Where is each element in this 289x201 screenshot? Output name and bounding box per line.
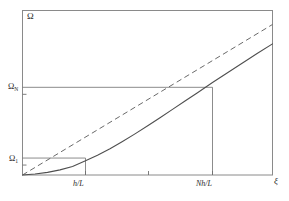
y-tick-label-omega-n: ΩN — [8, 82, 18, 91]
y-axis-label: Ω — [27, 12, 34, 21]
y-tick-omega-n-sub: N — [14, 86, 18, 92]
plot-canvas — [0, 0, 289, 201]
figure-container: Ω ξ ΩN Ω1 h/L Nh/L — [0, 0, 289, 201]
plot-frame — [23, 11, 273, 176]
x-tick-label-h-over-l: h/L — [73, 180, 84, 188]
guide-lines-group — [23, 87, 213, 175]
y-tick-omega-1-sub: 1 — [15, 158, 18, 164]
x-tick-label-nh-over-l: Nh/L — [196, 180, 212, 188]
linear-asymptote-line — [23, 24, 273, 175]
x-tick-nh-over-l-text: Nh/L — [196, 179, 212, 188]
y-tick-label-omega-1: Ω1 — [9, 154, 18, 163]
tick-marks-group — [23, 94, 213, 175]
x-axis-label: ξ — [274, 177, 278, 186]
x-tick-h-over-l-text: h/L — [73, 179, 84, 188]
dispersion-curve-line — [23, 44, 273, 175]
